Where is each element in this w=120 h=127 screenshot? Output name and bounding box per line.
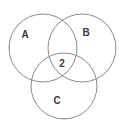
set-b-label: B (82, 27, 89, 38)
set-b-circle (48, 14, 116, 82)
set-a-label: A (21, 29, 28, 40)
set-a-circle (9, 14, 77, 82)
venn-diagram: A B 2 C (0, 0, 120, 127)
set-c-label: C (53, 95, 60, 106)
intersection-abc-label: 2 (59, 58, 65, 69)
